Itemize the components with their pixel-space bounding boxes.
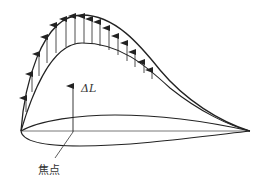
inner-lift-curve <box>21 43 250 131</box>
airfoil-lift-diagram: ΔL 焦点 <box>0 0 267 182</box>
delta-lift-label: ΔL <box>81 82 96 95</box>
outer-lift-curve <box>21 15 250 131</box>
diagram-graphic <box>0 0 267 182</box>
lift-distribution-arrows <box>26 16 152 112</box>
focus-point-label: 焦点 <box>38 161 60 177</box>
airfoil-lower-surface <box>21 131 250 146</box>
